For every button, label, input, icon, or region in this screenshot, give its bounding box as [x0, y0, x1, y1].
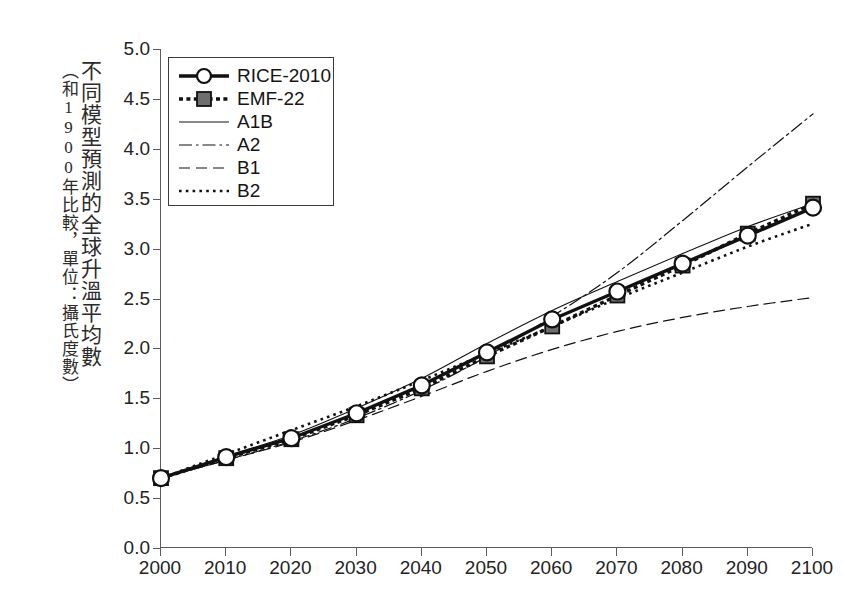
legend-swatch-icon: [177, 66, 231, 86]
y-axis-tick-mark: [153, 448, 160, 449]
y-axis-tick-label: 4.5: [94, 88, 150, 110]
series-line-emf-22: [161, 204, 813, 478]
y-axis-tick-label: 2.0: [94, 337, 150, 359]
data-point-marker: [479, 344, 495, 360]
series-markers-emf-22: [154, 197, 820, 485]
y-axis-tick-mark: [153, 49, 160, 50]
y-axis-tick-label: 4.0: [94, 138, 150, 160]
y-axis-tick-label: 0.5: [94, 487, 150, 509]
data-point-marker: [349, 405, 365, 421]
y-axis-tick-label: 1.0: [94, 437, 150, 459]
x-axis-tick-label: 2030: [321, 557, 391, 579]
legend-item-b2[interactable]: B2: [177, 179, 329, 202]
data-point-marker: [675, 256, 691, 272]
x-axis-tick-mark: [616, 548, 617, 556]
x-axis-tick-label: 2010: [190, 557, 260, 579]
data-point-marker: [283, 430, 299, 446]
legend-item-rice-2010[interactable]: RICE-2010: [177, 64, 329, 87]
y-axis-tick-mark: [153, 299, 160, 300]
data-point-marker: [805, 200, 821, 216]
y-axis-tick-mark: [153, 498, 160, 499]
x-axis-tick-label: 2000: [125, 557, 195, 579]
x-axis-tick-mark: [551, 548, 552, 556]
y-axis-tick-label: 3.5: [94, 188, 150, 210]
y-axis-tick-mark: [153, 548, 160, 549]
y-axis-tick-mark: [153, 99, 160, 100]
data-point-marker: [153, 470, 169, 486]
legend: RICE-2010EMF-22A1BA2B1B2: [168, 57, 334, 206]
y-axis-tick-label: 2.5: [94, 288, 150, 310]
legend-swatch-icon: [177, 158, 231, 178]
legend-item-label: B1: [237, 157, 260, 179]
legend-item-a1b[interactable]: A1B: [177, 110, 329, 133]
y-axis-tick-mark: [153, 149, 160, 150]
x-axis-tick-label: 2070: [581, 557, 651, 579]
legend-item-emf-22[interactable]: EMF-22: [177, 87, 329, 110]
y-axis-tick-mark: [153, 199, 160, 200]
y-axis-tick-mark: [153, 398, 160, 399]
legend-item-label: RICE-2010: [237, 65, 331, 87]
x-axis-tick-mark: [747, 548, 748, 556]
x-axis-tick-mark: [225, 548, 226, 556]
y-axis-tick-label: 1.5: [94, 387, 150, 409]
y-axis-tick-mark: [153, 249, 160, 250]
data-point-marker: [544, 311, 560, 327]
x-axis-tick-label: 2090: [712, 557, 782, 579]
legend-item-label: A2: [237, 134, 260, 156]
x-axis-tick-label: 2060: [516, 557, 586, 579]
legend-item-label: A1B: [237, 111, 273, 133]
legend-swatch-icon: [177, 181, 231, 201]
x-axis-tick-mark: [682, 548, 683, 556]
x-axis-tick-mark: [356, 548, 357, 556]
data-point-marker: [414, 377, 430, 393]
legend-item-label: EMF-22: [237, 88, 305, 110]
x-axis-tick-label: 2080: [647, 557, 717, 579]
x-axis-tick-mark: [160, 548, 161, 556]
x-axis-tick-mark: [812, 548, 813, 556]
x-axis-tick-label: 2050: [451, 557, 521, 579]
legend-item-a2[interactable]: A2: [177, 133, 329, 156]
y-axis-tick-label: 3.0: [94, 238, 150, 260]
data-point-marker: [740, 228, 756, 244]
y-axis-label-sub: （和1900年比較，單位：攝氏度數）: [60, 62, 77, 394]
legend-swatch-icon: [177, 89, 231, 109]
y-axis-tick-mark: [153, 348, 160, 349]
legend-swatch-icon: [177, 135, 231, 155]
data-point-marker: [609, 284, 625, 300]
x-axis-tick-mark: [290, 548, 291, 556]
legend-swatch-icon: [177, 112, 231, 132]
x-axis-tick-label: 2100: [777, 557, 844, 579]
data-point-marker: [218, 449, 234, 465]
y-axis-tick-label: 0.0: [94, 537, 150, 559]
x-axis-tick-label: 2040: [386, 557, 456, 579]
x-axis-tick-mark: [486, 548, 487, 556]
series-line-a1b: [161, 204, 813, 478]
y-axis-tick-label: 5.0: [94, 38, 150, 60]
y-axis-label: 不同模型預測的全球升溫平均數 （和1900年比較，單位：攝氏度數）: [8, 60, 100, 560]
temperature-projection-chart: 不同模型預測的全球升溫平均數 （和1900年比較，單位：攝氏度數） 0.00.5…: [0, 0, 844, 606]
x-axis-tick-label: 2020: [255, 557, 325, 579]
legend-item-b1[interactable]: B1: [177, 156, 329, 179]
legend-item-label: B2: [237, 180, 260, 202]
x-axis-tick-mark: [421, 548, 422, 556]
